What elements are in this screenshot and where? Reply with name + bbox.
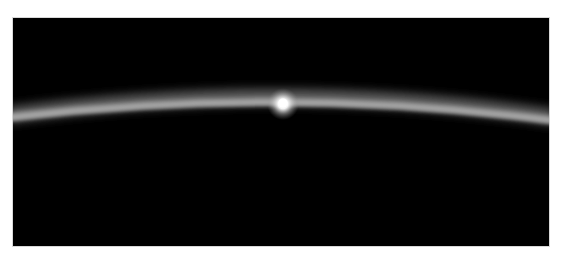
sun-icon [279, 99, 288, 108]
limb-scene [13, 18, 549, 246]
space-photograph [13, 18, 549, 246]
